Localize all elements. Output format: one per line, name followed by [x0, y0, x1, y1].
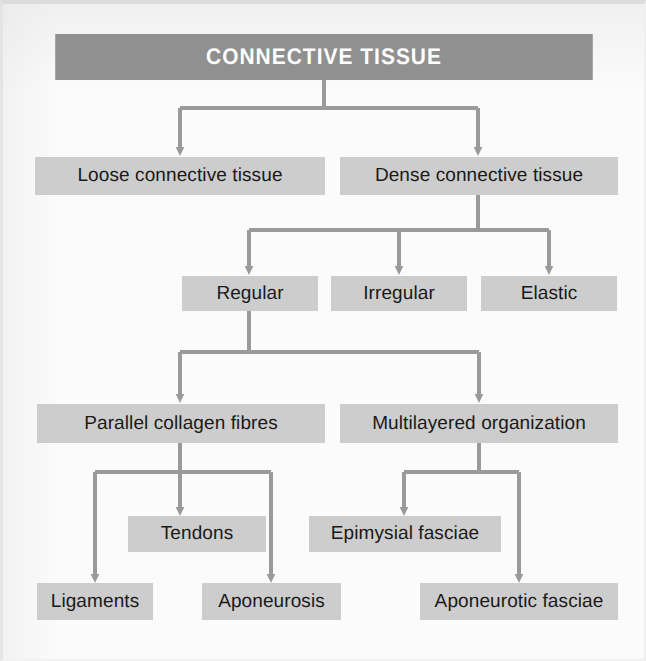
node-elastic[interactable]: Elastic [481, 276, 617, 311]
node-label-parallel-collagen-fibres: Parallel collagen fibres [84, 413, 278, 435]
node-loose-connective-tissue[interactable]: Loose connective tissue [35, 157, 325, 195]
node-irregular[interactable]: Irregular [331, 276, 467, 311]
node-label-elastic: Elastic [521, 283, 578, 305]
node-label-aponeurotic-fasciae: Aponeurotic fasciae [435, 591, 604, 613]
node-epimysial-fasciae[interactable]: Epimysial fasciae [309, 516, 501, 552]
node-label-loose-connective-tissue: Loose connective tissue [77, 165, 282, 187]
node-connective-tissue[interactable]: CONNECTIVE TISSUE [55, 34, 593, 80]
node-aponeurotic-fasciae[interactable]: Aponeurotic fasciae [420, 583, 618, 620]
flowchart-canvas: CONNECTIVE TISSUE Loose connective tissu… [0, 0, 646, 661]
node-label-ligaments: Ligaments [51, 591, 140, 613]
connector-layer [0, 0, 646, 661]
node-label-regular: Regular [216, 283, 283, 305]
node-ligaments[interactable]: Ligaments [37, 583, 153, 620]
node-label-irregular: Irregular [363, 283, 435, 305]
node-multilayered-organization[interactable]: Multilayered organization [340, 404, 618, 443]
node-dense-connective-tissue[interactable]: Dense connective tissue [340, 157, 618, 195]
node-tendons[interactable]: Tendons [128, 516, 266, 552]
node-label-multilayered-organization: Multilayered organization [372, 413, 586, 435]
node-regular[interactable]: Regular [182, 276, 318, 311]
node-parallel-collagen-fibres[interactable]: Parallel collagen fibres [37, 404, 325, 443]
node-aponeurosis[interactable]: Aponeurosis [202, 583, 341, 620]
node-label-connective-tissue: CONNECTIVE TISSUE [206, 44, 442, 70]
node-label-tendons: Tendons [161, 523, 234, 545]
node-label-dense-connective-tissue: Dense connective tissue [375, 165, 583, 187]
node-label-epimysial-fasciae: Epimysial fasciae [331, 523, 479, 545]
node-label-aponeurosis: Aponeurosis [218, 591, 325, 613]
